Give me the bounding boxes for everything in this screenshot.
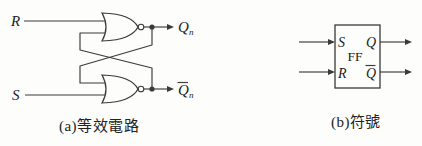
- qbar-output-arrowhead-icon: [167, 86, 174, 92]
- q-output-label: Q: [178, 19, 189, 35]
- equivalent-circuit-diagram: R S Q n Q n: [10, 13, 194, 103]
- caption-equivalent-circuit: (a)等效電路: [29, 114, 169, 135]
- nor-gate-top-inversion-bubble-icon: [138, 24, 144, 30]
- qbar-output-label: Q: [178, 82, 189, 98]
- pin-s-arrowhead-icon: [328, 39, 335, 45]
- pin-q-label: Q: [366, 35, 376, 50]
- r-input-label: R: [10, 13, 20, 29]
- nor-gate-bottom: [102, 75, 144, 103]
- pin-qbar-arrowhead-icon: [405, 69, 412, 75]
- caption-symbol: (b)符號: [300, 110, 412, 131]
- nor-gate-top: [102, 13, 144, 41]
- sr-latch-figure: R S Q n Q n S R Q Q: [0, 0, 422, 146]
- pin-r-arrowhead-icon: [328, 69, 335, 75]
- nor-gate-bottom-body: [102, 75, 138, 103]
- pin-q-arrowhead-icon: [405, 39, 412, 45]
- pin-qbar-label: Q: [366, 66, 376, 81]
- q-output-subscript: n: [189, 27, 194, 37]
- q-junction-dot: [149, 24, 154, 29]
- ff-block-label: FF: [347, 49, 363, 64]
- ff-symbol-diagram: S R Q Q FF: [299, 25, 412, 88]
- qbar-junction-dot: [149, 86, 154, 91]
- nor-gate-top-body: [102, 13, 138, 41]
- qbar-output-subscript: n: [189, 90, 194, 100]
- s-input-label: S: [12, 87, 20, 103]
- q-output-arrowhead-icon: [167, 24, 174, 30]
- pin-r-label: R: [337, 66, 347, 81]
- pin-s-label: S: [338, 35, 345, 50]
- nor-gate-bottom-inversion-bubble-icon: [138, 86, 144, 92]
